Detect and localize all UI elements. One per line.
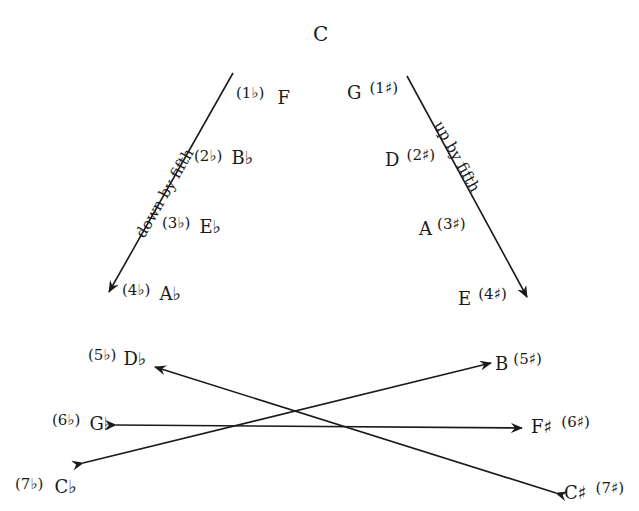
key-a: A (3♯) [419,220,466,238]
key-b: B (5♯) [495,355,542,373]
key-d: D (2♯) [385,151,435,169]
key-g: G (1♯) [347,84,398,102]
center-note-c: C [313,24,328,44]
key-aflat: (4♭) A♭ [122,280,181,298]
arrow-cflat-b [83,363,491,463]
key-bflat: (2♭) B♭ [194,146,253,164]
key-fsharp: F♯ (6♯) [531,418,590,436]
key-f: (1♭) F [236,83,290,101]
key-gflat: (6♭) G♭ [52,410,112,428]
key-cflat: (7♭) C♭ [15,474,77,492]
arrow-gflat-fsharp [116,425,522,428]
key-eflat: (3♭) E♭ [162,213,221,231]
key-csharp: C♯ (7♯) [564,484,624,502]
key-e: E (4♯) [458,290,507,308]
key-dflat: (5♭) D♭ [88,345,146,363]
